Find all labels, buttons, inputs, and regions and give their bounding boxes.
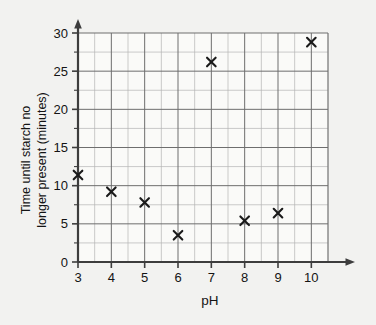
x-tick-label: 7 — [208, 270, 215, 285]
y-tick-label: 5 — [61, 216, 68, 231]
x-tick-label: 6 — [174, 270, 181, 285]
y-tick-label: 15 — [54, 140, 68, 155]
y-tick-label: 20 — [54, 102, 68, 117]
y-tick-label: 0 — [61, 255, 68, 270]
y-axis-title-line-1: Time until starch no — [19, 106, 33, 215]
y-tick-label: 30 — [54, 26, 68, 41]
x-tick-label: 4 — [108, 270, 115, 285]
x-tick-label: 3 — [74, 270, 81, 285]
x-tick-label: 10 — [304, 270, 318, 285]
scatter-chart: 051015202530 345678910 Time until starch… — [0, 0, 376, 325]
x-tick-label: 8 — [241, 270, 248, 285]
x-tick-label: 9 — [274, 270, 281, 285]
y-tick-label: 10 — [54, 178, 68, 193]
y-tick-label: 25 — [54, 64, 68, 79]
x-axis-title: pH — [201, 293, 218, 308]
y-axis-title-line-2: longer present (minutes) — [35, 92, 49, 227]
x-tick-label: 5 — [141, 270, 148, 285]
